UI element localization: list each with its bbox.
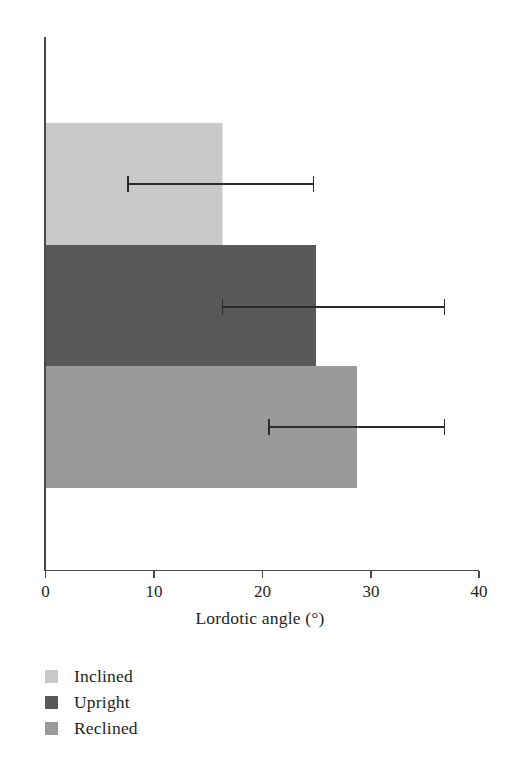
legend-swatch-reclined [45,722,58,735]
legend-swatch-inclined [45,670,58,683]
bar-upright [46,245,317,366]
x-tick-label-10: 10 [146,582,163,600]
legend-item-inclined: Inclined [44,663,304,689]
legend-swatch-upright [45,696,58,709]
legend-item-upright: Upright [44,689,304,715]
x-axis-title: Lordotic angle (°) [0,608,520,629]
bar-chart-svg: 0 10 20 30 40 [0,0,520,600]
figure-container: 0 10 20 30 40 Lordotic angle (°) Incline… [0,0,520,766]
legend-item-reclined: Reclined [44,715,304,741]
x-tick-label-30: 30 [363,582,380,600]
x-tick-label-20: 20 [254,582,271,600]
legend-label-upright: Upright [74,692,130,712]
legend: Inclined Upright Reclined [44,663,304,741]
plot-area: 0 10 20 30 40 [0,0,520,600]
x-tick-label-40: 40 [471,582,488,600]
x-tick-label-0: 0 [41,582,50,600]
legend-label-reclined: Reclined [74,718,138,738]
legend-label-inclined: Inclined [74,666,133,686]
